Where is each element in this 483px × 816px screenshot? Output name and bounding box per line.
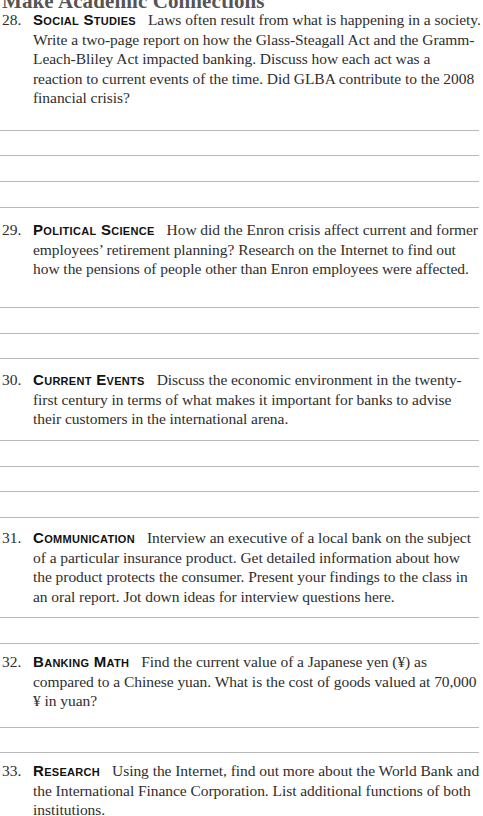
- answer-line-28-2[interactable]: [0, 155, 479, 156]
- answer-line-29-3[interactable]: [0, 358, 479, 359]
- question-body: ResearchUsing the Internet, find out mor…: [33, 761, 481, 816]
- question-body: Political ScienceHow did the Enron crisi…: [33, 220, 481, 279]
- question-body: Current EventsDiscuss the economic envir…: [33, 370, 481, 429]
- question-number: 33.: [2, 761, 21, 781]
- question-subject: Current Events: [33, 371, 145, 388]
- answer-line-32-1[interactable]: [0, 727, 479, 728]
- question-body: CommunicationInterview an executive of a…: [33, 528, 481, 606]
- question-body: Social StudiesLaws often result from wha…: [33, 10, 481, 108]
- answer-line-30-1[interactable]: [0, 440, 479, 441]
- answer-line-30-3[interactable]: [0, 491, 479, 492]
- question-subject: Research: [33, 762, 100, 779]
- answer-line-29-1[interactable]: [0, 307, 479, 308]
- question-number: 30.: [2, 370, 21, 390]
- answer-line-30-2[interactable]: [0, 466, 479, 467]
- question-number: 29.: [2, 220, 21, 240]
- answer-line-30-4[interactable]: [0, 517, 479, 518]
- answer-line-31-2[interactable]: [0, 643, 479, 644]
- question-subject: Communication: [33, 529, 135, 546]
- question-subject: Social Studies: [33, 11, 136, 28]
- answer-line-29-2[interactable]: [0, 333, 479, 334]
- answer-line-32-2[interactable]: [0, 752, 479, 753]
- answer-line-28-4[interactable]: [0, 207, 479, 208]
- answer-line-28-1[interactable]: [0, 130, 479, 131]
- question-subject: Political Science: [33, 221, 155, 238]
- answer-line-31-1[interactable]: [0, 617, 479, 618]
- answer-line-28-3[interactable]: [0, 181, 479, 182]
- question-number: 31.: [2, 528, 21, 548]
- question-subject: Banking Math: [33, 653, 129, 670]
- question-body: Banking MathFind the current value of a …: [33, 652, 481, 711]
- question-number: 32.: [2, 652, 21, 672]
- question-number: 28.: [2, 10, 21, 30]
